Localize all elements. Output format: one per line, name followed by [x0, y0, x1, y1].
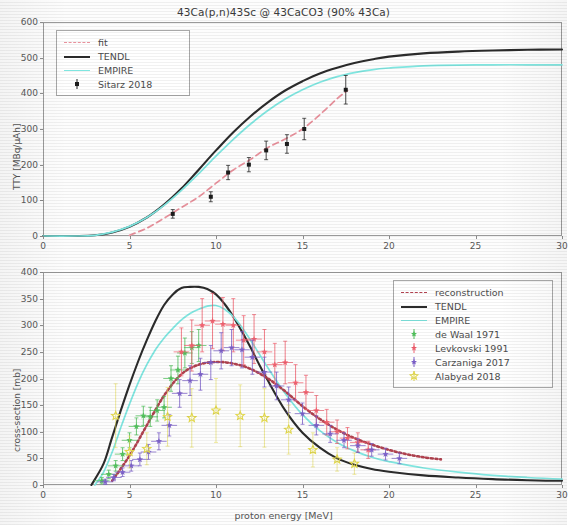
y-tick-label: 500 — [5, 53, 38, 63]
y-tick-label: 400 — [5, 267, 38, 277]
x-tick-label: 10 — [210, 490, 221, 500]
y-tick-label: 200 — [5, 160, 38, 170]
legend-swatch-dashed-icon — [62, 36, 92, 48]
legend-label: Levkovski 1991 — [435, 343, 508, 354]
legend-swatch-errorbar-icon — [399, 328, 429, 340]
x-tick-mark — [43, 236, 44, 239]
bottom-legend-item[interactable]: Alabyad 2018 — [399, 369, 546, 383]
legend-swatch-dashed-icon — [399, 286, 429, 298]
y-tick-mark — [40, 379, 43, 380]
y-tick-mark — [40, 325, 43, 326]
y-tick-label: 100 — [5, 195, 38, 205]
y-tick-mark — [40, 432, 43, 433]
y-tick-mark — [40, 129, 43, 130]
bottom-legend-item[interactable]: Carzaniga 2017 — [399, 355, 546, 369]
x-tick-mark — [130, 236, 131, 239]
legend-label: fit — [98, 37, 108, 48]
x-tick-mark — [303, 485, 304, 488]
y-tick-label: 150 — [5, 400, 38, 410]
x-axis-label: proton energy [MeV] — [0, 510, 567, 521]
legend-label: EMPIRE — [435, 315, 470, 326]
bottom-legend-item[interactable]: de Waal 1971 — [399, 327, 546, 341]
series-fit — [130, 91, 348, 236]
y-tick-mark — [40, 165, 43, 166]
x-tick-label: 30 — [556, 490, 567, 500]
x-tick-mark — [216, 236, 217, 239]
y-tick-label: 600 — [5, 17, 38, 27]
x-tick-mark — [476, 485, 477, 488]
legend-label: EMPIRE — [98, 65, 133, 76]
x-tick-label: 30 — [556, 241, 567, 251]
bottom-panel: cross-section [mb] 051015202530050100150… — [0, 262, 567, 525]
y-tick-label: 300 — [5, 320, 38, 330]
top-panel: 43Ca(p,n)43Sc @ 43CaCO3 (90% 43Ca) TTY [… — [0, 0, 567, 262]
series-sitarz-2018 — [171, 76, 348, 219]
x-tick-mark — [389, 236, 390, 239]
x-tick-mark — [130, 485, 131, 488]
bottom-legend-item[interactable]: reconstruction — [399, 285, 546, 299]
top-legend-item[interactable]: fit — [62, 35, 183, 49]
legend-label: TENDL — [435, 301, 467, 312]
y-tick-label: 100 — [5, 427, 38, 437]
y-tick-label: 350 — [5, 294, 38, 304]
y-tick-mark — [40, 272, 43, 273]
x-tick-label: 5 — [127, 241, 133, 251]
legend-label: Sitarz 2018 — [98, 79, 152, 90]
legend-swatch-solid-icon — [62, 50, 92, 62]
x-tick-mark — [43, 485, 44, 488]
y-tick-mark — [40, 22, 43, 23]
top-legend: fitTENDLEMPIRESitarz 2018 — [56, 30, 190, 96]
y-tick-mark — [40, 236, 43, 237]
y-tick-label: 200 — [5, 374, 38, 384]
x-tick-mark — [476, 236, 477, 239]
y-tick-mark — [40, 352, 43, 353]
x-tick-label: 15 — [297, 241, 308, 251]
legend-swatch-solid-icon — [62, 64, 92, 76]
bottom-legend-item[interactable]: TENDL — [399, 299, 546, 313]
legend-label: reconstruction — [435, 287, 504, 298]
x-tick-label: 20 — [383, 490, 394, 500]
y-tick-label: 400 — [5, 88, 38, 98]
legend-swatch-errorbar-icon — [399, 342, 429, 354]
x-tick-mark — [216, 485, 217, 488]
top-legend-item[interactable]: TENDL — [62, 49, 183, 63]
y-tick-mark — [40, 58, 43, 59]
top-legend-item[interactable]: EMPIRE — [62, 63, 183, 77]
legend-label: Carzaniga 2017 — [435, 357, 510, 368]
y-tick-label: 300 — [5, 124, 38, 134]
legend-label: TENDL — [98, 51, 130, 62]
y-tick-mark — [40, 458, 43, 459]
y-tick-mark — [40, 405, 43, 406]
bottom-legend: reconstructionTENDLEMPIREde Waal 1971Lev… — [393, 280, 553, 388]
bottom-legend-item[interactable]: Levkovski 1991 — [399, 341, 546, 355]
x-tick-label: 25 — [470, 241, 481, 251]
x-tick-label: 10 — [210, 241, 221, 251]
bottom-legend-item[interactable]: EMPIRE — [399, 313, 546, 327]
y-tick-mark — [40, 93, 43, 94]
y-tick-mark — [40, 200, 43, 201]
x-tick-label: 20 — [383, 241, 394, 251]
top-legend-item[interactable]: Sitarz 2018 — [62, 77, 183, 91]
y-tick-label: 0 — [5, 231, 38, 241]
y-tick-mark — [40, 485, 43, 486]
x-tick-mark — [562, 485, 563, 488]
x-tick-mark — [562, 236, 563, 239]
legend-swatch-solid-icon — [399, 314, 429, 326]
x-tick-mark — [389, 485, 390, 488]
legend-swatch-errorbar-icon — [399, 356, 429, 368]
x-tick-label: 25 — [470, 490, 481, 500]
x-tick-label: 15 — [297, 490, 308, 500]
y-tick-label: 0 — [5, 480, 38, 490]
series-de-waal-1971 — [94, 330, 206, 484]
legend-label: de Waal 1971 — [435, 329, 500, 340]
legend-label: Alabyad 2018 — [435, 371, 501, 382]
x-tick-mark — [303, 236, 304, 239]
legend-swatch-star-icon — [399, 370, 429, 382]
legend-swatch-errorbar-icon — [62, 78, 92, 90]
x-tick-label: 5 — [127, 490, 133, 500]
legend-swatch-solid-icon — [399, 300, 429, 312]
y-tick-label: 50 — [5, 453, 38, 463]
x-tick-label: 0 — [40, 241, 46, 251]
y-tick-label: 250 — [5, 347, 38, 357]
